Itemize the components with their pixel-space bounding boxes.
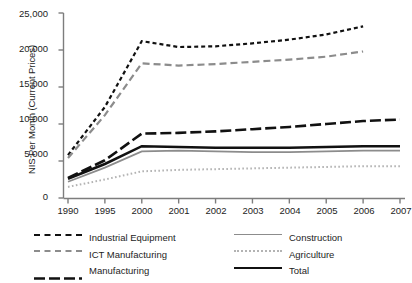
legend-swatch-construction	[234, 234, 282, 242]
legend-swatch-agriculture	[234, 250, 282, 259]
chart-legend: Industrial Equipment Construction ICT Ma…	[34, 230, 408, 280]
series-line-construction	[68, 151, 400, 182]
series-line-industrial-equipment	[68, 26, 363, 155]
legend-item-total: Total	[234, 263, 408, 280]
legend-label-agriculture: Agriculture	[289, 250, 334, 260]
legend-item-manufacturing: Manufacturing	[34, 263, 234, 280]
legend-item-construction: Construction	[234, 230, 408, 247]
legend-label-construction: Construction	[289, 233, 342, 243]
legend-label-manufacturing: Manufacturing	[89, 266, 149, 276]
legend-label-industrial-equipment: Industrial Equipment	[89, 233, 176, 243]
series-line-agriculture	[68, 166, 400, 187]
legend-item-agriculture: Agriculture	[234, 247, 408, 264]
legend-swatch-ict-manufacturing	[34, 250, 82, 259]
legend-swatch-industrial-equipment	[34, 234, 82, 243]
legend-swatch-total	[234, 267, 282, 276]
legend-label-total: Total	[289, 266, 309, 276]
legend-label-ict-manufacturing: ICT Manufacturing	[89, 250, 167, 260]
legend-swatch-manufacturing	[34, 268, 82, 275]
series-line-ict-manufacturing	[68, 51, 363, 158]
series-lines	[68, 26, 400, 187]
axis-lines	[59, 13, 406, 204]
legend-item-industrial-equipment: Industrial Equipment	[34, 230, 234, 247]
chart-figure: NIS Per Month (Current Prices) 25,000 20…	[0, 0, 412, 283]
legend-item-ict-manufacturing: ICT Manufacturing	[34, 247, 234, 264]
